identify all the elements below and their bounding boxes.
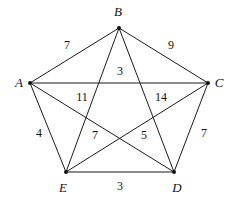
weighted-graph-figure: ABCDE 793111447753: [0, 0, 235, 197]
graph-vertex-dot-d: [172, 170, 176, 174]
graph-edge-ad: [30, 83, 174, 172]
vertex-label-d: D: [172, 181, 181, 194]
vertex-label-e: E: [59, 181, 67, 194]
graph-edge-bc: [119, 28, 208, 83]
edge-weight-cd: 7: [200, 127, 208, 139]
edge-weight-ae: 4: [35, 127, 43, 139]
graph-vertex-dot-c: [206, 81, 210, 85]
edge-weight-ac: 3: [116, 65, 124, 77]
edge-weight-ab: 7: [63, 39, 71, 51]
graph-edge-ab: [30, 28, 119, 83]
edge-weight-bc: 9: [167, 39, 175, 51]
edges-group: [30, 28, 208, 172]
graph-edge-be: [66, 28, 119, 172]
vertex-label-b: B: [114, 5, 122, 18]
graph-canvas: [0, 0, 235, 197]
edge-weight-bd: 5: [140, 129, 148, 141]
graph-vertex-dot-b: [117, 26, 121, 30]
edge-weight-ed: 3: [116, 180, 124, 192]
edge-weight-ce: 14: [154, 91, 168, 103]
vertex-label-a: A: [15, 76, 23, 89]
edge-weight-ad: 11: [75, 91, 89, 103]
edge-weight-be: 7: [91, 129, 99, 141]
graph-vertex-dot-a: [28, 81, 32, 85]
graph-vertex-dot-e: [64, 170, 68, 174]
vertices-group: [28, 26, 210, 174]
vertex-label-c: C: [215, 76, 224, 89]
